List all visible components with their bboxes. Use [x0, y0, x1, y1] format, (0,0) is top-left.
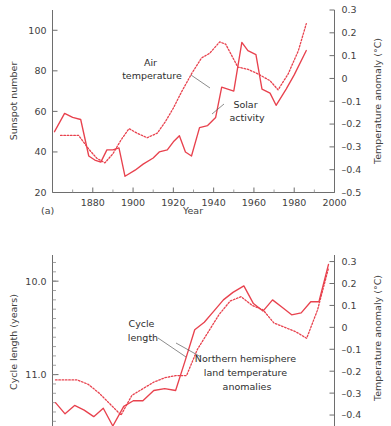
- panel-b-y2tick-label: –0.4: [342, 409, 362, 420]
- panel-b-plot-frame: [53, 255, 335, 426]
- panel-a-y2tick-label: –0.3: [342, 141, 362, 152]
- panel-b-y2tick-label: –0.2: [342, 366, 362, 377]
- panel-a-xtick-label: 1960: [242, 197, 266, 208]
- panel-b-annotations: Cycle length Northern hemisphere land te…: [128, 318, 299, 392]
- panel-a-y2tick-label: 0.2: [342, 27, 357, 38]
- panel-a-x-ticks: 1880190019201940196019802000: [73, 188, 347, 208]
- panel-a-y2tick-label: –0.2: [342, 118, 362, 129]
- annotation-air-temperature: Air temperature: [122, 57, 182, 81]
- panel-a-xtick-label: 1900: [121, 197, 145, 208]
- panel-a-y2tick-label: –0.5: [342, 187, 362, 198]
- panel-a-plot-frame: [53, 10, 335, 193]
- panel-b-ytick-label: 10.0: [25, 276, 46, 287]
- panel-b-y2tick-label: 0.3: [342, 256, 357, 267]
- panel-b-ylabel: Cycle length (years): [8, 294, 19, 390]
- panel-a-ytick-label: 20: [34, 187, 46, 198]
- panel-a-xtick-label: 2000: [322, 197, 346, 208]
- panel-a-y2tick-label: –0.4: [342, 164, 362, 175]
- panel-a-ytick-label: 40: [34, 146, 46, 157]
- panel-a-y2tick-label: 0.1: [342, 50, 357, 61]
- panel-b-y-ticks: 10.011.0: [25, 262, 58, 421]
- series-line-northern-hemisphere-land-temperature-ano: [56, 268, 329, 415]
- panel-a-xtick-label: 1980: [282, 197, 306, 208]
- panel-a-ylabel: Sunspot number: [8, 62, 19, 141]
- panel-b-y2label: Temperature anomaly (°C): [372, 275, 383, 402]
- panel-a-xtick-label: 1880: [81, 197, 105, 208]
- annotation-cycle-length: Cycle length: [128, 318, 158, 343]
- panel-b-y2tick-label: 0.1: [342, 300, 357, 311]
- panel-b-y2tick-label: –0.3: [342, 388, 362, 399]
- panel-a-xtick-label: 1940: [202, 197, 226, 208]
- panel-b-series-group: [56, 264, 329, 426]
- panel-b-y2tick-label: 0.2: [342, 278, 357, 289]
- panel-a-ytick-label: 60: [34, 106, 46, 117]
- series-line-solar-activity: [55, 42, 307, 176]
- panel-a-series-group: [55, 24, 307, 177]
- panel-a-xtick-label: 1920: [161, 197, 185, 208]
- panel-a-label: (a): [41, 205, 54, 216]
- panel-a-y2label: Temperature anomaly (°C): [372, 38, 383, 165]
- leader-line-air-temperature: [191, 75, 210, 88]
- panel-a-y2tick-label: 0.3: [342, 4, 357, 15]
- panel-b-ytick-label: 11.0: [25, 369, 46, 380]
- series-line-cycle-length: [56, 264, 329, 426]
- panel-b-y2tick-label: 0: [342, 322, 348, 333]
- panel-a-y2tick-label: 0: [342, 73, 348, 84]
- annotation-nh-land-temperature: Northern hemisphere land temperature ano…: [195, 353, 299, 392]
- chart-panel-a: 20406080100 1880190019201940196019802000…: [0, 0, 391, 222]
- figure-root: 20406080100 1880190019201940196019802000…: [0, 0, 391, 426]
- leader-line-cycle-length: [158, 338, 186, 357]
- panel-a-ytick-label: 80: [34, 65, 46, 76]
- panel-a-ytick-label: 100: [28, 25, 46, 36]
- panel-a-y-ticks: 20406080100: [28, 25, 57, 198]
- chart-panel-b: 10.011.0 –0.4–0.3–0.2–0.100.10.20.3 Cycl…: [0, 220, 391, 426]
- annotation-solar-activity: Solar activity: [229, 99, 264, 123]
- panel-a-annotations: Air temperature Solar activity: [122, 57, 265, 123]
- panel-a-y2tick-label: –0.1: [342, 96, 362, 107]
- panel-a-xlabel: Year: [182, 205, 203, 216]
- panel-b-y2tick-label: –0.1: [342, 344, 362, 355]
